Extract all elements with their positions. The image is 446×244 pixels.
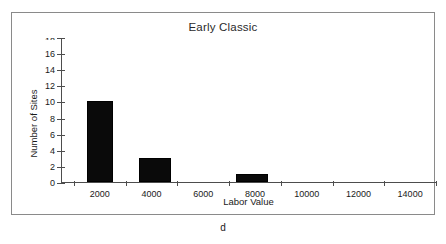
y-tick-label: 10 — [45, 97, 55, 107]
y-tick-label: 0 — [50, 178, 55, 188]
y-tick-mark — [57, 86, 65, 87]
x-tick-mark — [177, 181, 178, 186]
x-tick-mark — [333, 181, 334, 186]
bar — [236, 174, 268, 182]
y-tick-mark — [57, 167, 65, 168]
y-tick-label: 2 — [50, 162, 55, 172]
x-tick-mark — [384, 181, 385, 186]
y-axis-title-text: Number of Sites — [28, 89, 39, 157]
y-tick-label: 8 — [50, 114, 55, 124]
x-axis-title: Labor Value — [61, 196, 436, 207]
x-tick-mark — [436, 181, 437, 186]
plot-area: 024681012141618 200040006000800010000120… — [61, 38, 436, 183]
figure-caption: d — [0, 222, 446, 233]
y-tick-mark — [57, 183, 65, 184]
x-tick-mark — [281, 181, 282, 186]
y-tick-label: 14 — [45, 65, 55, 75]
y-axis-title: Number of Sites — [26, 63, 40, 183]
chart-title: Early Classic — [12, 21, 434, 33]
y-tick-label: 18 — [45, 36, 55, 40]
y-tick-mark — [57, 38, 65, 39]
y-tick-label: 12 — [45, 81, 55, 91]
bar — [87, 101, 113, 182]
chart-frame: Early Classic Number of Sites 0246810121… — [11, 12, 435, 215]
y-tick-label: 6 — [50, 130, 55, 140]
x-axis-line — [61, 182, 436, 183]
bar — [139, 158, 171, 182]
x-tick-mark — [74, 181, 75, 186]
y-tick-mark — [57, 54, 65, 55]
y-tick-mark — [57, 70, 65, 71]
y-tick-mark — [57, 135, 65, 136]
y-tick-label: 4 — [50, 146, 55, 156]
figure-container: Early Classic Number of Sites 0246810121… — [0, 0, 446, 244]
y-tick-mark — [57, 119, 65, 120]
y-tick-mark — [57, 102, 65, 103]
x-tick-mark — [229, 181, 230, 186]
y-tick-mark — [57, 151, 65, 152]
y-axis-line — [61, 38, 62, 184]
y-tick-label: 16 — [45, 49, 55, 59]
x-tick-mark — [126, 181, 127, 186]
